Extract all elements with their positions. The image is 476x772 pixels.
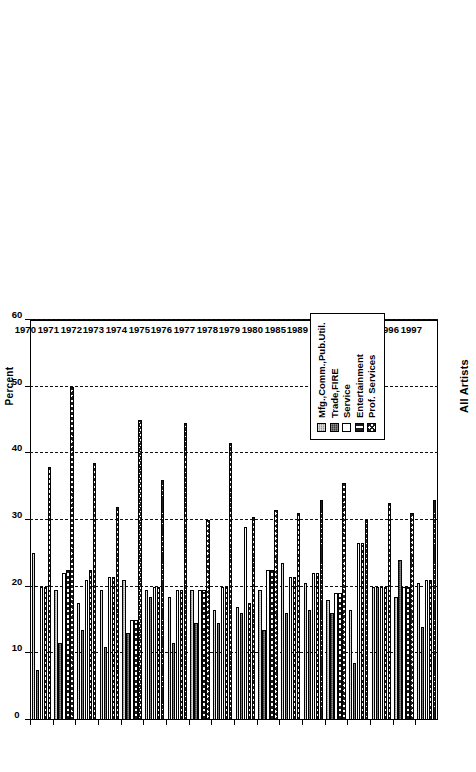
bar-1991-service bbox=[334, 593, 337, 720]
x-tick-60 bbox=[25, 319, 30, 320]
x-tick-30 bbox=[25, 519, 30, 520]
legend-label-2: Service bbox=[342, 384, 352, 418]
bar-1975-trade-fire bbox=[149, 597, 152, 720]
bar-1977-trade-fire bbox=[194, 623, 197, 720]
bar-1979-entertainment bbox=[248, 603, 251, 720]
bar-1978-mfg-comm-pub-util- bbox=[213, 610, 216, 720]
bar-1995-entertainment bbox=[384, 587, 387, 720]
bar-1977-entertainment bbox=[202, 590, 205, 720]
bar-1976-mfg-comm-pub-util- bbox=[168, 597, 171, 720]
x-tick-label-40: 40 bbox=[12, 442, 23, 453]
bar-1972-mfg-comm-pub-util- bbox=[77, 603, 80, 720]
y-tick-1972 bbox=[75, 720, 76, 725]
chart-stage: Percent All Artists 0102030405060 197019… bbox=[0, 0, 476, 772]
bar-1975-entertainment bbox=[157, 587, 160, 720]
y-tick-1996 bbox=[393, 720, 394, 725]
bar-1989-mfg-comm-pub-util- bbox=[304, 583, 307, 720]
y-axis-label-1979: 1979 bbox=[219, 325, 240, 336]
bar-1989-trade-fire bbox=[308, 610, 311, 720]
y-tick-1989 bbox=[302, 720, 303, 725]
y-tick-1985 bbox=[279, 720, 280, 725]
y-tick-1995 bbox=[370, 720, 371, 725]
bar-1995-trade-fire bbox=[376, 587, 379, 720]
legend-swatch-4 bbox=[367, 423, 376, 432]
chart-title: All Artists bbox=[458, 0, 470, 772]
y-tick-1975 bbox=[143, 720, 144, 725]
x-tick-20 bbox=[25, 586, 30, 587]
bar-1978-service bbox=[221, 587, 224, 720]
bar-1991-prof-services bbox=[342, 483, 345, 720]
bar-1972-trade-fire bbox=[81, 630, 84, 720]
bar-1994-trade-fire bbox=[353, 663, 356, 720]
y-axis-label-1997: 1997 bbox=[400, 325, 421, 336]
y-axis-label-1975: 1975 bbox=[128, 325, 149, 336]
legend-swatch-2 bbox=[342, 423, 351, 432]
x-tick-label-50: 50 bbox=[12, 376, 23, 387]
gridline-30 bbox=[30, 519, 438, 520]
bar-1980-entertainment bbox=[270, 570, 273, 720]
bar-1995-mfg-comm-pub-util- bbox=[372, 587, 375, 720]
x-tick-label-20: 20 bbox=[12, 576, 23, 587]
y-tick-1978 bbox=[211, 720, 212, 725]
bar-1976-entertainment bbox=[180, 590, 183, 720]
y-tick-1970 bbox=[30, 720, 31, 725]
bar-1996-service bbox=[402, 587, 405, 720]
bar-1985-service bbox=[289, 577, 292, 720]
bar-1978-entertainment bbox=[225, 587, 228, 720]
bar-1985-trade-fire bbox=[285, 613, 288, 720]
y-tick-1977 bbox=[189, 720, 190, 725]
bar-1974-entertainment bbox=[134, 620, 137, 720]
y-axis-label-1977: 1977 bbox=[174, 325, 195, 336]
bar-1997-prof-services bbox=[433, 500, 436, 720]
y-axis-label-1976: 1976 bbox=[151, 325, 172, 336]
y-axis-label-1978: 1978 bbox=[196, 325, 217, 336]
y-axis-label-1974: 1974 bbox=[106, 325, 127, 336]
bar-1979-trade-fire bbox=[240, 613, 243, 720]
bar-1974-service bbox=[130, 620, 133, 720]
x-tick-label-60: 60 bbox=[12, 309, 23, 320]
bar-1976-trade-fire bbox=[172, 643, 175, 720]
bar-1989-service bbox=[312, 573, 315, 720]
bar-1976-service bbox=[176, 590, 179, 720]
bar-1974-mfg-comm-pub-util- bbox=[122, 580, 125, 720]
legend-item-0: Mfg.,Comm.,Pub.Util. bbox=[317, 322, 327, 432]
gridline-40 bbox=[30, 452, 438, 453]
bar-1979-prof-services bbox=[252, 517, 255, 720]
y-tick-1997 bbox=[415, 720, 416, 725]
bar-1970-trade-fire bbox=[36, 670, 39, 720]
y-axis-label-1989: 1989 bbox=[287, 325, 308, 336]
bar-1985-entertainment bbox=[293, 577, 296, 720]
bar-1994-mfg-comm-pub-util- bbox=[349, 610, 352, 720]
bar-1980-service bbox=[266, 570, 269, 720]
bar-1971-mfg-comm-pub-util- bbox=[54, 590, 57, 720]
y-tick-1976 bbox=[166, 720, 167, 725]
legend-item-2: Service bbox=[342, 322, 352, 432]
y-axis-label-1971: 1971 bbox=[38, 325, 59, 336]
bar-1970-service bbox=[40, 587, 43, 720]
bar-1975-prof-services bbox=[161, 480, 164, 720]
bar-1991-entertainment bbox=[338, 593, 341, 720]
bar-1989-entertainment bbox=[316, 573, 319, 720]
y-tick-1991 bbox=[325, 720, 326, 725]
y-tick-1971 bbox=[53, 720, 54, 725]
bar-1997-mfg-comm-pub-util- bbox=[417, 583, 420, 720]
chart-canvas: Percent All Artists 0102030405060 197019… bbox=[0, 0, 476, 772]
x-tick-50 bbox=[25, 386, 30, 387]
bar-1976-prof-services bbox=[184, 423, 187, 720]
bar-1985-mfg-comm-pub-util- bbox=[281, 563, 284, 720]
legend-swatch-3 bbox=[355, 423, 364, 432]
bar-1972-service bbox=[85, 580, 88, 720]
bar-1991-mfg-comm-pub-util- bbox=[326, 600, 329, 720]
bar-1971-service bbox=[62, 573, 65, 720]
y-tick-1979 bbox=[234, 720, 235, 725]
bar-1974-prof-services bbox=[138, 420, 141, 720]
bar-1970-prof-services bbox=[48, 467, 51, 720]
legend-item-1: Trade,FIRE bbox=[330, 322, 340, 432]
bar-1970-mfg-comm-pub-util- bbox=[32, 553, 35, 720]
bar-1978-prof-services bbox=[229, 443, 232, 720]
x-tick-10 bbox=[25, 652, 30, 653]
x-tick-label-30: 30 bbox=[12, 509, 23, 520]
y-axis-label-1972: 1972 bbox=[60, 325, 81, 336]
y-axis-label-1970: 1970 bbox=[15, 325, 36, 336]
legend-swatch-1 bbox=[330, 423, 339, 432]
